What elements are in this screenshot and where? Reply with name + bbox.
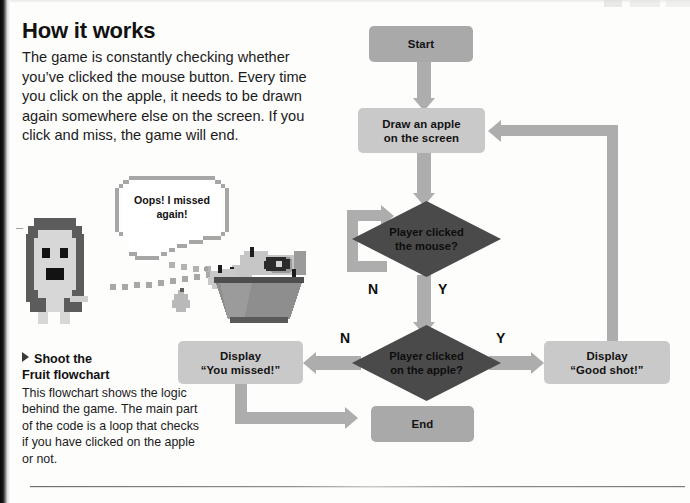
flow-node-end-label: End: [412, 417, 434, 431]
arrowhead-left-1: [303, 352, 316, 374]
flow-node-decision-apple[interactable]: Player clicked on the apple?: [352, 325, 501, 401]
arrowhead-right-1: [531, 352, 544, 374]
page-canvas: How it works The game is constantly chec…: [0, 0, 690, 503]
edge-good-to-draw-h: [500, 125, 618, 136]
branch-label-mouse-no: N: [368, 281, 378, 297]
flow-node-end[interactable]: End: [371, 406, 474, 442]
flow-node-draw-apple-line1: Draw an apple: [382, 118, 461, 130]
edge-decision1-to-decision2: [417, 275, 431, 323]
flow-node-start-label: Start: [408, 37, 434, 51]
flow-node-decision-mouse-line2: the mouse?: [395, 240, 458, 252]
arrowhead-left-2: [488, 120, 501, 142]
flow-node-decision-apple-line2: on the apple?: [390, 364, 463, 376]
flowchart: Start Draw an apple on the screen Player…: [0, 0, 690, 503]
arrowhead-right-2: [345, 407, 358, 429]
flow-node-display-good-line1: Display: [586, 350, 627, 362]
flow-node-display-missed-line1: Display: [220, 350, 261, 362]
flow-node-start[interactable]: Start: [369, 26, 473, 62]
flow-node-display-good-line2: “Good shot!”: [570, 364, 643, 376]
branch-label-apple-no: N: [340, 330, 350, 346]
flow-node-display-good[interactable]: Display “Good shot!”: [544, 341, 670, 384]
flow-node-decision-mouse[interactable]: Player clicked the mouse?: [352, 201, 501, 277]
edge-draw-to-decision1: [417, 152, 431, 194]
flow-node-draw-apple[interactable]: Draw an apple on the screen: [358, 108, 485, 153]
flow-node-display-missed[interactable]: Display “You missed!”: [178, 341, 303, 384]
flow-node-decision-mouse-line1: Player clicked: [389, 226, 464, 238]
flow-node-display-missed-line2: “You missed!”: [201, 364, 281, 376]
footer-rule-shadow: [30, 487, 685, 488]
flow-node-draw-apple-line2: on the screen: [384, 132, 459, 144]
edge-missed-to-end-h: [235, 412, 349, 424]
edge-start-to-draw: [417, 61, 431, 99]
edge-good-to-draw-v: [607, 125, 618, 342]
flow-node-decision-apple-line1: Player clicked: [389, 350, 464, 362]
branch-label-apple-yes: Y: [496, 330, 505, 346]
branch-label-mouse-yes: Y: [438, 281, 447, 297]
